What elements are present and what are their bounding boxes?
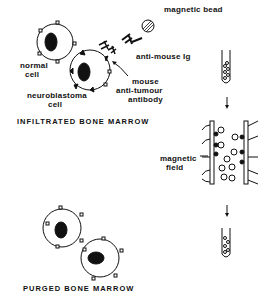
down-arrow-icon-2 (225, 205, 229, 217)
normal-cell-label-2: cell (25, 70, 39, 79)
magnetic-column (202, 121, 258, 184)
normal-cell-label-1: normal (20, 61, 48, 70)
neuroblastoma-label-1: neuroblastoma (27, 91, 87, 100)
magnetic-bead-label: magnetic bead (164, 5, 223, 14)
anti-mouse-ig-label: anti-mouse Ig (136, 52, 191, 61)
purged-cell-2 (81, 237, 123, 280)
purged-cell-1 (43, 206, 83, 248)
neuroblastoma-label-2: cell (48, 100, 62, 109)
test-tube-icon-top (222, 50, 230, 83)
diagram-canvas (0, 0, 277, 297)
mouse-antibody-label-1: mouse (132, 77, 159, 86)
test-tube-icon-bottom (222, 228, 230, 257)
magnetic-field-label-2: field (166, 163, 183, 172)
normal-cell (37, 21, 76, 63)
mouse-antibody-label-3: antibody (128, 95, 163, 104)
mouse-antibody-label-2: anti-tumour (116, 86, 163, 95)
neuroblastoma-cell (70, 50, 111, 92)
pointer-arrow (113, 62, 128, 76)
magnetic-bead-icon (142, 20, 154, 32)
mouse-antibody-icon (99, 41, 116, 54)
purged-title: PURGED BONE MARROW (23, 284, 134, 293)
magnetic-field-label-1: magnetic (160, 154, 197, 163)
infiltrated-title: INFILTRATED BONE MARROW (17, 117, 149, 126)
down-arrow-icon (225, 97, 229, 109)
anti-mouse-ig-icon (122, 34, 142, 44)
